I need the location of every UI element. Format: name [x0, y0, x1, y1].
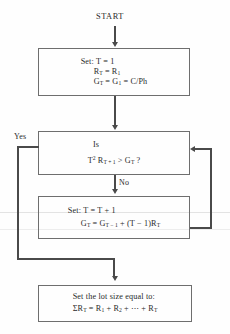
connector-result-drop — [113, 258, 115, 278]
connector-loop-out — [190, 227, 212, 229]
connector-yes-down — [17, 146, 19, 260]
terminal-box-result: Set the lot size equal to: ΣRT = R1 + R2… — [38, 285, 192, 322]
result-line-1: Set the lot size equal to: — [73, 292, 158, 302]
update-line-2: GT = GT − 1 + (T − 1)RT — [68, 219, 160, 229]
arrowhead-down-icon — [112, 276, 118, 281]
setup-line-3: GT = G1 = C/Ph — [81, 77, 148, 87]
setup-box-text: Set: T = 1 RT = R1 GT = G1 = C/Ph — [81, 57, 148, 87]
decision-line-2: T2 RT + 1 > GT ? — [88, 155, 141, 166]
arrowhead-down-icon — [112, 42, 118, 47]
arrowhead-down-icon — [112, 125, 118, 130]
arrowhead-down-icon — [112, 189, 118, 194]
decision-line-1: Is — [52, 140, 141, 150]
branch-label-yes: Yes — [14, 132, 26, 141]
process-box-update: Set: T = T + 1 GT = GT − 1 + (T − 1)RT — [38, 196, 190, 239]
decision-box-test: Is T2 RT + 1 > GT ? — [38, 131, 190, 175]
connector-setup-to-decision — [114, 96, 116, 126]
connector-yes-to-result — [17, 258, 115, 260]
connector-loop-up — [210, 148, 212, 229]
result-box-text: Set the lot size equal to: ΣRT = R1 + R2… — [73, 292, 158, 314]
arrowhead-left-icon — [190, 146, 195, 152]
setup-line-2: RT = R1 — [81, 67, 148, 77]
connector-yes-out — [17, 146, 39, 148]
start-label: START — [96, 12, 124, 21]
connector-loop-into-decision — [195, 148, 212, 150]
result-line-2: ΣRT = R1 + R2 + ⋯ + RT — [73, 304, 158, 314]
update-line-1: Set: T = T + 1 — [68, 206, 160, 216]
decision-box-text: Is T2 RT + 1 > GT ? — [88, 140, 141, 166]
branch-label-no: No — [119, 178, 129, 187]
flowchart-canvas: START Set: T = 1 RT = R1 GT = G1 = C/Ph … — [0, 0, 230, 334]
update-box-text: Set: T = T + 1 GT = GT − 1 + (T − 1)RT — [68, 206, 160, 229]
setup-line-1: Set: T = 1 — [81, 57, 148, 67]
process-box-setup: Set: T = 1 RT = R1 GT = G1 = C/Ph — [38, 48, 190, 96]
